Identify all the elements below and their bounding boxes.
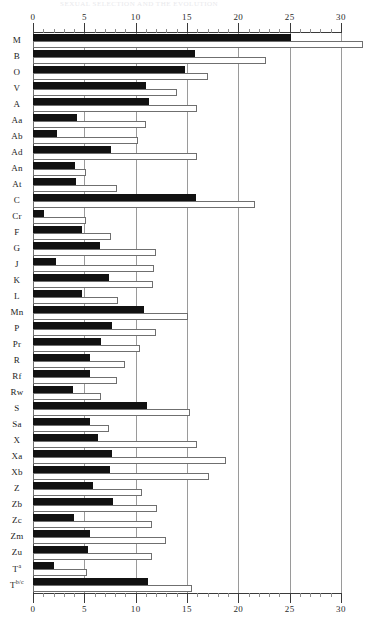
bar-white [33,297,118,304]
bar-group [33,546,341,561]
axis-tick-minor [43,593,44,597]
axis-tick-major [187,593,188,603]
y-axis-category-label: Cr [2,211,32,221]
y-axis-category-label: Mn [2,307,32,317]
page-running-header: SEXUAL SELECTION AND THE EVOLUTION 9 [60,0,360,9]
axis-tick-minor [146,593,147,597]
bar-black [33,290,82,297]
axis-tick-minor [331,593,332,597]
bar-black [33,258,56,265]
axis-tick-minor [249,593,250,597]
axis-tick-major [33,593,34,603]
axis-tick-label: 10 [131,12,141,22]
axis-tick-label: 20 [233,604,243,614]
y-axis-category-label: Sa [2,419,32,429]
bar-black [33,322,112,329]
bar-group [33,146,341,161]
bar-white [33,585,192,592]
bar-group [33,306,341,321]
bar-group [33,194,341,209]
y-axis-category-label: J [2,259,32,269]
bar-group [33,258,341,273]
bar-group [33,66,341,81]
axis-tick-label: 15 [182,12,192,22]
x-axis-bottom: 051015202530 [33,593,341,605]
bar-black [33,242,100,249]
running-header-text: SEXUAL SELECTION AND THE EVOLUTION [60,0,218,8]
axis-tick-major [136,593,137,603]
bar-group [33,114,341,129]
bar-black [33,498,113,505]
bar-group [33,50,341,65]
axis-tick-label: 25 [285,12,295,22]
bar-group [33,274,341,289]
axis-tick-label: 25 [285,604,295,614]
bar-group [33,130,341,145]
bar-group [33,290,341,305]
bar-black [33,546,88,553]
axis-tick-minor [74,593,75,597]
bar-group [33,82,341,97]
y-axis-category-label: Ta [2,563,32,574]
bar-black [33,306,144,313]
bar-white [33,201,255,208]
y-axis-category-label: An [2,163,32,173]
axis-tick-minor [105,593,106,597]
bar-black [33,386,73,393]
axis-tick-label: 20 [233,12,243,22]
bar-black [33,562,54,569]
bar-black [33,530,90,537]
bar-white [33,153,197,160]
bar-black [33,418,90,425]
bar-black [33,370,90,377]
bar-group [33,370,341,385]
y-axis-category-label: Aa [2,115,32,125]
y-axis-category-label: M [2,35,32,45]
bar-group [33,418,341,433]
bar-white [33,105,197,112]
bar-group [33,498,341,513]
y-axis-category-label: Zb [2,499,32,509]
bar-black [33,146,111,153]
bar-black [33,402,147,409]
bar-white [33,265,154,272]
axis-tick-major [238,593,239,603]
bar-group [33,98,341,113]
axis-tick-minor [320,593,321,597]
bar-white [33,409,190,416]
bar-group [33,322,341,337]
bar-black [33,338,101,345]
bar-group [33,354,341,369]
bar-group [33,338,341,353]
y-axis-category-label: P [2,323,32,333]
bar-white [33,169,86,176]
bar-black [33,210,44,217]
bar-black [33,82,146,89]
axis-tick-minor [279,593,280,597]
y-axis-category-label: O [2,67,32,77]
bar-white [33,89,177,96]
y-axis-category-label: R [2,355,32,365]
axis-tick-major [290,593,291,603]
y-axis-category-label: X [2,435,32,445]
axis-tick-major [84,23,85,33]
axis-tick-major [136,23,137,33]
bar-white [33,137,138,144]
bar-group [33,466,341,481]
y-axis-category-label: Xa [2,451,32,461]
bar-black [33,466,110,473]
bar-black [33,226,82,233]
bar-black [33,162,75,169]
y-axis-category-label: V [2,83,32,93]
y-axis-category-label: Xb [2,467,32,477]
axis-tick-label: 30 [336,12,346,22]
bar-black [33,66,185,73]
axis-tick-major [187,23,188,33]
bar-white [33,553,152,560]
bar-white [33,121,146,128]
bar-white [33,473,209,480]
plot-area [33,33,341,593]
y-axis-category-label: S [2,403,32,413]
axis-tick-minor [208,593,209,597]
bar-white [33,489,142,496]
